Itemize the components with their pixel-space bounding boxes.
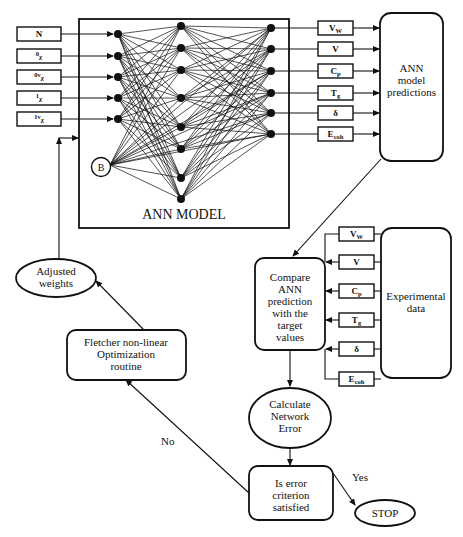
experimental-line-2: data [407, 302, 425, 314]
predictions-line-2: model [398, 74, 426, 86]
hidden-neuron [177, 66, 185, 74]
decision-line-3: satisfied [273, 501, 310, 513]
variable-label: V [332, 44, 339, 54]
ann-model-box: B ANN MODEL [79, 19, 289, 228]
calc-error-line-2: Network [271, 410, 310, 422]
variable-label: δ [354, 344, 359, 354]
no-label: No [161, 435, 175, 447]
weights-line-2: weights [39, 277, 73, 289]
calc-error-line-3: Error [278, 422, 302, 434]
ann-training-flowchart: B ANN MODEL N0χ0vχ1χ1vχ VWVCpTgδEcoh ANN… [0, 0, 463, 537]
input-neuron [114, 73, 122, 81]
compare-line-2: ANN [278, 283, 302, 295]
hidden-neuron [177, 174, 185, 182]
target-box: δ [326, 342, 381, 356]
input-neuron [114, 94, 122, 102]
hidden-neuron [177, 44, 185, 52]
target-box: Cp [326, 284, 381, 298]
compare-line-1: Compare [270, 271, 310, 283]
target-box: V [326, 255, 381, 269]
hidden-neuron [177, 94, 185, 102]
hidden-neuron [177, 123, 185, 131]
input-neuron [114, 115, 122, 123]
optimizer-line-1: Fletcher non-linear [84, 336, 168, 348]
optimizer-line-2: Optimization [97, 348, 156, 360]
predictions-line-1: ANN [400, 62, 424, 74]
no-arrow [126, 380, 249, 493]
bias-label: B [98, 162, 105, 173]
optimizer-line-3: routine [110, 360, 141, 372]
hidden-neuron [177, 145, 185, 153]
target-box: VW [339, 227, 381, 241]
calculate-error-node: Calculate Network Error [249, 388, 331, 448]
stop-label: STOP [372, 507, 399, 519]
optimizer-to-weights-arrow [96, 281, 144, 330]
input-neuron [114, 52, 122, 60]
compare-line-6: values [276, 331, 304, 343]
target-box: Tg [326, 313, 381, 327]
target-variables: VWVCpTgδEcoh [325, 227, 381, 386]
adjusted-weights-node: Adjusted weights [16, 259, 96, 297]
compare-line-4: with the [272, 307, 308, 319]
ann-model-title: ANN MODEL [142, 207, 226, 222]
calc-error-line-1: Calculate [269, 398, 311, 410]
optimizer-node: Fletcher non-linear Optimization routine [67, 330, 186, 380]
yes-label: Yes [352, 471, 368, 483]
decision-line-2: criterion [272, 489, 310, 501]
variable-label: δ [333, 108, 338, 118]
variable-label: V [353, 257, 360, 267]
compare-line-3: prediction [268, 295, 313, 307]
predictions-line-3: predictions [387, 86, 436, 98]
target-box: Ecoh [339, 372, 381, 386]
input-neuron [114, 30, 122, 38]
decision-node: Is error criterion satisfied [249, 466, 333, 520]
experimental-line-1: Experimental [386, 290, 445, 302]
stop-node: STOP [355, 500, 415, 526]
hidden-neuron [177, 22, 185, 30]
bias-node: B [92, 158, 111, 177]
ann-predictions-node: ANN model predictions [380, 13, 443, 161]
variable-label: N [36, 29, 43, 39]
weights-line-1: Adjusted [36, 265, 76, 277]
compare-line-5: target [278, 319, 303, 331]
compare-node: Compare ANN prediction with the target v… [255, 258, 325, 350]
experimental-data-node: Experimental data [381, 228, 451, 378]
decision-line-1: Is error [275, 477, 307, 489]
hidden-neuron [177, 195, 185, 203]
